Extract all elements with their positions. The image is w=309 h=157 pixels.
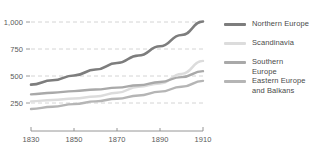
series-line-eastern-europe-and-balkans xyxy=(31,81,203,109)
legend-item-label: Southern Europe xyxy=(252,57,309,76)
legend-swatch-icon xyxy=(224,42,246,45)
series-lines xyxy=(31,21,203,108)
x-axis-tick-label: 1910 xyxy=(194,135,211,144)
x-axis-tick-label: 1890 xyxy=(151,135,168,144)
legend-item-label: Northern Europe xyxy=(252,19,309,29)
legend-item-eastern-europe-and-balkans[interactable]: Eastern Europe and Balkans xyxy=(224,76,306,95)
y-axis-tick-label: 500 xyxy=(10,72,23,81)
y-axis-tick-label: 250 xyxy=(10,99,23,108)
legend-item-label: Eastern Europe and Balkans xyxy=(252,76,306,95)
y-axis-labels: 2505007501,000 xyxy=(4,18,23,108)
x-axis-tick-label: 1870 xyxy=(108,135,125,144)
x-axis-tick-label: 1850 xyxy=(65,135,82,144)
legend-swatch-icon xyxy=(224,80,246,83)
legend-item-northern-europe[interactable]: Northern Europe xyxy=(224,19,309,29)
line-chart: 2505007501,000 18301850187018901910 Nort… xyxy=(0,0,309,157)
legend-item-scandinavia[interactable]: Scandinavia xyxy=(224,38,294,48)
legend-item-southern-europe[interactable]: Southern Europe xyxy=(224,57,309,76)
x-axis-labels: 18301850187018901910 xyxy=(22,135,211,144)
y-axis-tick-label: 750 xyxy=(10,45,23,54)
y-axis-tick-label: 1,000 xyxy=(4,18,23,27)
legend-swatch-icon xyxy=(224,23,246,26)
legend-item-label: Scandinavia xyxy=(252,38,294,48)
x-axis-tick-label: 1830 xyxy=(22,135,39,144)
x-axis xyxy=(31,127,203,131)
legend-swatch-icon xyxy=(224,61,246,64)
